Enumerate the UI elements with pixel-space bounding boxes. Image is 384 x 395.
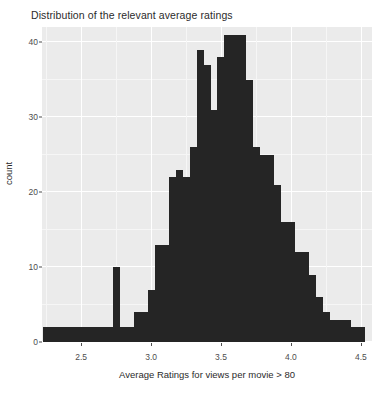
y-axis-tick-mark: [39, 192, 42, 193]
x-axis-tick-mark: [361, 343, 362, 346]
y-axis-tick-mark: [39, 42, 42, 43]
y-axis-tick-label: 0: [33, 337, 38, 347]
y-axis-tick-mark: [39, 267, 42, 268]
y-axis-tick-label: 40: [29, 37, 38, 47]
x-axis-label: Average Ratings for views per movie > 80: [119, 369, 295, 380]
x-axis-tick-label: 3.5: [215, 352, 227, 362]
x-axis-tick-mark: [81, 343, 82, 346]
gridline-minor-vertical: [326, 27, 327, 342]
y-axis-tick-label: 20: [29, 187, 38, 197]
x-axis-tick-label: 3.0: [145, 352, 157, 362]
histogram-chart: Distribution of the relevant average rat…: [0, 0, 384, 395]
x-axis-tick-label: 2.5: [75, 352, 87, 362]
gridline-minor-vertical: [46, 27, 47, 342]
histogram-bar: [357, 327, 365, 342]
x-axis-tick-mark: [221, 343, 222, 346]
y-axis-tick-label: 10: [29, 262, 38, 272]
page-title: Distribution of the relevant average rat…: [31, 9, 233, 21]
gridline-major-horizontal: [42, 41, 372, 42]
y-axis-tick-mark: [39, 117, 42, 118]
x-axis-tick-mark: [151, 343, 152, 346]
y-axis-tick-label: 30: [29, 112, 38, 122]
y-axis-label: count: [3, 162, 14, 185]
x-axis-tick-label: 4.0: [285, 352, 297, 362]
gridline-major-vertical: [361, 27, 362, 342]
plot-panel: [42, 27, 372, 342]
x-axis-tick-label: 4.5: [355, 352, 367, 362]
y-axis-tick-mark: [39, 342, 42, 343]
x-axis-tick-mark: [291, 343, 292, 346]
gridline-major-vertical: [81, 27, 82, 342]
